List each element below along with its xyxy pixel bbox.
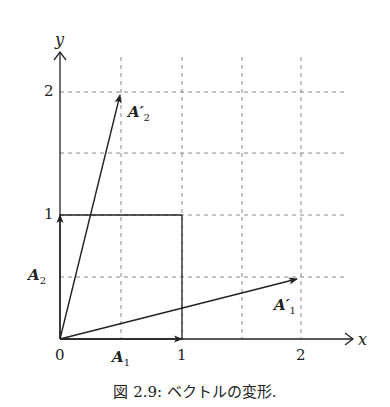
- figure-caption: 図 2.9: ベクトルの変形.: [0, 380, 390, 401]
- vector-a2-prime: [60, 95, 120, 339]
- y-axis-label: y: [55, 30, 64, 49]
- x-axis-label: x: [358, 330, 367, 349]
- x-tick-0: 0: [55, 346, 65, 364]
- x-tick-2: 2: [296, 346, 306, 364]
- vector-a1-prime: [60, 279, 297, 339]
- label-a1: A1: [112, 348, 130, 368]
- grid: [60, 57, 345, 339]
- vectors: [60, 95, 297, 339]
- label-a2: A2: [28, 266, 46, 286]
- y-tick-1: 1: [44, 205, 54, 223]
- y-tick-2: 2: [44, 82, 54, 100]
- x-tick-1: 1: [177, 346, 187, 364]
- label-a1-prime: A′1: [274, 296, 296, 316]
- label-a2-prime: A′2: [128, 103, 150, 123]
- axes: [54, 52, 353, 345]
